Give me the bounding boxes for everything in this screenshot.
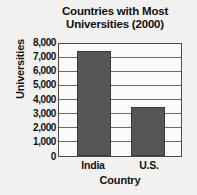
y-tick-label: 0 [18,152,56,162]
chart-title: Countries with Most Universities (2000) [36,5,194,31]
x-tick-label-us: U.S. [116,159,182,171]
y-tick-label: 2,000 [18,123,56,133]
y-tick-label: 5,000 [18,80,56,90]
bar-chart-figure: Countries with Most Universities (2000) … [0,0,197,195]
y-tick-label: 7,000 [18,52,56,62]
y-tick-label: 6,000 [18,66,56,76]
plot-area [58,43,182,157]
bar-india [77,51,111,156]
x-axis-label: Country [58,174,182,186]
chart-title-line-2: Universities (2000) [36,18,194,31]
bar-us [131,107,165,156]
y-axis-tick-labels: 8,000 7,000 6,000 5,000 4,000 3,000 2,00… [18,38,56,162]
y-tick-label: 4,000 [18,95,56,105]
y-tick-label: 1,000 [18,137,56,147]
y-tick-label: 3,000 [18,109,56,119]
y-tick-label: 8,000 [18,38,56,48]
chart-title-line-1: Countries with Most [36,5,194,18]
